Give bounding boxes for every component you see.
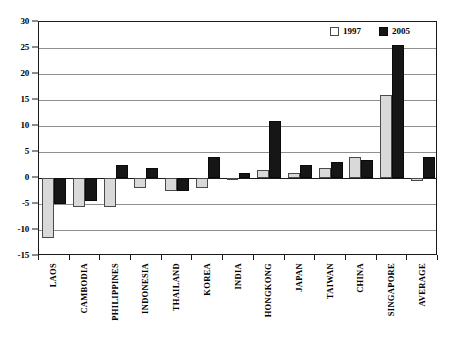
x-label-average: AVERAGE [417, 263, 427, 307]
legend-entry-1997: 1997 [330, 26, 361, 36]
x-tick-mark [222, 255, 223, 260]
bar-korea-1997 [196, 178, 208, 188]
x-label-philippines: PHILIPPINES [110, 263, 120, 321]
x-tick-mark [406, 255, 407, 260]
bar-japan-1997 [288, 173, 300, 178]
x-tick-mark [376, 255, 377, 260]
bar-laos-2005 [54, 178, 66, 204]
y-tick-label: -15 [18, 250, 29, 260]
bar-indonesia-1997 [134, 178, 146, 188]
bar-philippines-1997 [104, 178, 116, 207]
legend-label: 1997 [343, 26, 361, 36]
dark-square-icon [379, 27, 388, 36]
y-tick-label: -5 [22, 198, 29, 208]
bar-cambodia-1997 [73, 178, 85, 207]
bar-china-2005 [361, 160, 373, 178]
x-label-india: INDIA [233, 263, 243, 290]
x-label-cambodia: CAMBODIA [79, 263, 89, 314]
x-label-japan: JAPAN [294, 263, 304, 292]
bar-taiwan-2005 [331, 162, 343, 178]
bar-hongkong-1997 [257, 170, 269, 178]
x-tick-mark [191, 255, 192, 260]
x-tick-mark [345, 255, 346, 260]
y-tick-label: 5 [25, 146, 29, 156]
light-square-icon [330, 27, 339, 36]
x-tick-mark [130, 255, 131, 260]
bars-layer [39, 22, 436, 254]
legend-entry-2005: 2005 [379, 26, 410, 36]
bar-india-2005 [239, 173, 251, 178]
x-label-taiwan: TAIWAN [325, 263, 335, 299]
x-tick-mark [314, 255, 315, 260]
y-tick-label: 30 [20, 16, 29, 26]
bar-korea-2005 [208, 157, 220, 178]
x-label-singapore: SINGAPORE [386, 263, 396, 316]
x-tick-mark [284, 255, 285, 260]
y-tick-label: 20 [20, 68, 29, 78]
x-tick-mark [99, 255, 100, 260]
bar-indonesia-2005 [146, 168, 158, 178]
bar-china-1997 [349, 157, 361, 178]
bar-singapore-1997 [380, 95, 392, 178]
bar-thailand-1997 [165, 178, 177, 191]
bar-hongkong-2005 [269, 121, 281, 178]
bar-thailand-2005 [177, 178, 189, 191]
x-tick-mark [69, 255, 70, 260]
y-tick-label: 25 [20, 42, 29, 52]
x-label-hongkong: HONGKONG [263, 263, 273, 317]
y-tick-label: 10 [20, 120, 29, 130]
x-label-china: CHINA [355, 263, 365, 293]
x-label-korea: KOREA [202, 263, 212, 296]
bar-average-1997 [411, 178, 423, 181]
x-tick-mark [38, 255, 39, 260]
bar-philippines-2005 [116, 165, 128, 178]
x-axis: LAOSCAMBODIAPHILIPPINESINDONESIATHAILAND… [38, 255, 437, 341]
y-tick-label: 15 [20, 94, 29, 104]
bar-japan-2005 [300, 165, 312, 178]
bar-singapore-2005 [392, 45, 404, 178]
x-tick-mark [161, 255, 162, 260]
x-tick-mark [437, 255, 438, 260]
bar-average-2005 [423, 157, 435, 178]
y-axis: 302520151050-5-10-15 [0, 21, 38, 255]
bar-chart: 302520151050-5-10-15 LAOSCAMBODIAPHILIPP… [0, 0, 453, 341]
bar-cambodia-2005 [85, 178, 97, 201]
x-tick-mark [253, 255, 254, 260]
x-label-thailand: THAILAND [171, 263, 181, 311]
x-label-laos: LAOS [48, 263, 58, 287]
plot-area [38, 21, 437, 255]
bar-india-1997 [227, 178, 239, 180]
y-tick-label: -10 [18, 224, 29, 234]
bar-taiwan-1997 [319, 168, 331, 178]
bar-laos-1997 [42, 178, 54, 238]
legend-label: 2005 [392, 26, 410, 36]
y-tick-label: 0 [25, 172, 29, 182]
x-label-indonesia: INDONESIA [140, 263, 150, 314]
chart-legend: 19972005 [330, 26, 410, 36]
